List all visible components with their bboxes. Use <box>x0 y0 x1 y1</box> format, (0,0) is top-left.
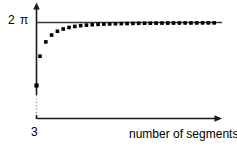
data-point <box>160 21 164 25</box>
data-point <box>207 21 211 25</box>
data-point <box>50 33 54 37</box>
data-point <box>183 21 187 25</box>
data-point <box>67 26 71 30</box>
data-point <box>137 22 141 26</box>
data-point <box>90 23 94 27</box>
data-point-series <box>38 21 216 58</box>
data-point <box>178 21 182 25</box>
data-point <box>125 22 129 26</box>
x-axis-title: number of segments <box>129 128 237 140</box>
y-axis-arrowhead-icon <box>33 3 40 10</box>
data-point <box>108 22 112 26</box>
chart-figure: 2 π 3 number of segments <box>0 0 237 149</box>
data-point <box>79 24 83 28</box>
data-point <box>131 22 135 26</box>
data-point <box>114 22 118 26</box>
x-axis-arrowhead-icon <box>215 115 223 122</box>
data-point <box>44 40 48 44</box>
data-point <box>212 21 216 25</box>
data-point <box>154 21 158 25</box>
y-axis-origin-dot <box>34 83 38 87</box>
data-point <box>195 21 199 25</box>
data-point <box>56 29 60 33</box>
data-point <box>102 22 106 26</box>
data-point <box>172 21 176 25</box>
data-point <box>96 23 100 27</box>
data-point <box>201 21 205 25</box>
data-point <box>61 27 65 31</box>
data-point <box>85 23 89 27</box>
data-point <box>38 54 42 58</box>
data-point <box>149 21 153 25</box>
data-point <box>73 25 77 29</box>
data-point <box>189 21 193 25</box>
data-point <box>119 22 123 26</box>
data-point <box>166 21 170 25</box>
x-axis-origin-tick-label: 3 <box>31 126 38 138</box>
data-point <box>143 21 147 25</box>
y-axis-tick-label: 2 π <box>8 14 29 26</box>
